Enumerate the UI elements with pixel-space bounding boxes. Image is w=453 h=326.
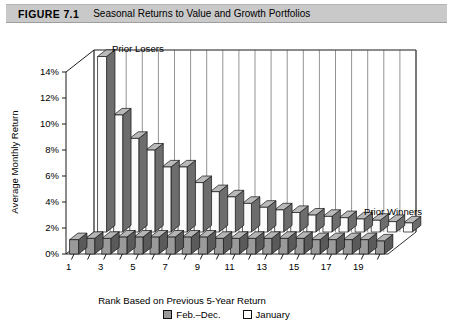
annotation-prior-losers: Prior Losers bbox=[112, 43, 164, 54]
x-tick bbox=[136, 254, 139, 260]
bar-feb-dec-10 bbox=[214, 232, 231, 254]
bar-feb-dec-9 bbox=[198, 231, 215, 255]
chart-legend: Feb.–Dec. January bbox=[0, 304, 453, 324]
bar-feb-dec-12 bbox=[247, 232, 264, 254]
x-tick bbox=[361, 254, 364, 260]
bar-side-face bbox=[123, 108, 131, 232]
bar-side-face bbox=[171, 160, 179, 232]
bar-side-face bbox=[107, 50, 115, 232]
y-tick-label: 2% bbox=[45, 222, 59, 233]
y-tick-label: 4% bbox=[45, 196, 59, 207]
bar-side-face bbox=[155, 144, 163, 233]
figure-header-band: FIGURE 7.1 Seasonal Returns to Value and… bbox=[6, 4, 447, 23]
bar-side-face bbox=[139, 132, 147, 232]
x-tick bbox=[313, 254, 316, 260]
bar-feb-dec-15 bbox=[295, 232, 312, 254]
x-tick bbox=[281, 254, 284, 260]
bar-january-9 bbox=[226, 190, 243, 232]
figure-title-label: Seasonal Returns to Value and Growth Por… bbox=[93, 8, 310, 19]
y-tick-label: 14% bbox=[40, 66, 60, 77]
annotation-prior-winners: Prior Winners bbox=[364, 206, 422, 217]
x-tick-label: 5 bbox=[130, 261, 135, 272]
figure-container: FIGURE 7.1 Seasonal Returns to Value and… bbox=[0, 0, 453, 326]
y-axis-title: Average Monthly Return bbox=[9, 110, 20, 213]
bar-january-10 bbox=[242, 197, 259, 232]
x-tick-label: 17 bbox=[321, 261, 332, 272]
bar-january-14 bbox=[307, 209, 324, 233]
bar-feb-dec-17 bbox=[327, 233, 344, 254]
bar-side-face bbox=[219, 185, 227, 232]
legend-label-january: January bbox=[256, 309, 290, 320]
bar-feb-dec-11 bbox=[231, 232, 248, 254]
bar-january-1 bbox=[98, 50, 115, 232]
x-tick-label: 11 bbox=[225, 261, 235, 272]
y-tick-label: 6% bbox=[45, 170, 59, 181]
y-axis-top-edge bbox=[66, 50, 94, 72]
figure-number-label: FIGURE 7.1 bbox=[18, 8, 79, 20]
bar-front-face bbox=[70, 240, 79, 254]
bar-january-2 bbox=[114, 108, 131, 232]
bar-feb-dec-5 bbox=[134, 231, 151, 255]
bar-feb-dec-18 bbox=[343, 233, 360, 254]
x-tick bbox=[329, 254, 332, 260]
bar-feb-dec-14 bbox=[279, 232, 296, 254]
legend-item-feb-dec: Feb.–Dec. bbox=[163, 309, 220, 320]
bar-front-face bbox=[98, 57, 107, 233]
x-tick bbox=[88, 254, 91, 260]
bar-side-face bbox=[187, 160, 195, 232]
bar-feb-dec-2 bbox=[86, 232, 103, 254]
y-tick-label: 0% bbox=[45, 248, 59, 259]
bar-feb-dec-6 bbox=[150, 231, 167, 255]
y-tick-label: 10% bbox=[40, 118, 60, 129]
bar-feb-dec-3 bbox=[102, 232, 119, 254]
legend-item-january: January bbox=[243, 309, 290, 320]
bar-feb-dec-7 bbox=[166, 231, 183, 255]
bar-january-8 bbox=[210, 185, 227, 232]
chart-plot-area: 0%2%4%6%8%10%12%14%135791113151719Prior … bbox=[0, 22, 453, 326]
bar-january-7 bbox=[194, 176, 211, 232]
x-tick bbox=[104, 254, 107, 260]
bar-january-12 bbox=[275, 203, 292, 232]
bar-january-5 bbox=[162, 160, 179, 232]
x-tick-label: 3 bbox=[98, 261, 103, 272]
bar-side-face bbox=[203, 176, 211, 232]
bar-feb-dec-1 bbox=[70, 233, 87, 254]
x-tick bbox=[377, 254, 380, 260]
bar-january-11 bbox=[259, 201, 276, 232]
bar-january-19 bbox=[387, 215, 404, 232]
bar-january-6 bbox=[178, 160, 195, 232]
bar-feb-dec-4 bbox=[118, 231, 135, 255]
x-tick-label: 1 bbox=[66, 261, 71, 272]
legend-swatch-feb-dec bbox=[163, 310, 172, 319]
y-tick-label: 12% bbox=[40, 92, 60, 103]
bar-feb-dec-19 bbox=[359, 233, 376, 254]
x-tick bbox=[249, 254, 252, 260]
x-tick bbox=[184, 254, 187, 260]
bar-feb-dec-8 bbox=[182, 231, 199, 255]
x-tick bbox=[345, 254, 348, 260]
bar-january-16 bbox=[339, 211, 356, 232]
x-tick bbox=[168, 254, 171, 260]
bar-january-15 bbox=[323, 210, 340, 232]
x-tick bbox=[232, 254, 235, 260]
bar-january-13 bbox=[291, 206, 308, 232]
bar-january-4 bbox=[146, 144, 163, 233]
y-tick-label: 8% bbox=[45, 144, 59, 155]
x-tick-label: 15 bbox=[289, 261, 300, 272]
x-tick bbox=[71, 254, 74, 260]
x-tick-label: 7 bbox=[163, 261, 168, 272]
x-tick bbox=[265, 254, 268, 260]
bar-chart-3d: 0%2%4%6%8%10%12%14%135791113151719Prior … bbox=[0, 22, 453, 326]
bar-side-face bbox=[235, 190, 243, 232]
x-tick bbox=[200, 254, 203, 260]
x-tick bbox=[120, 254, 123, 260]
x-tick bbox=[297, 254, 300, 260]
x-tick bbox=[152, 254, 155, 260]
bar-january-20 bbox=[403, 216, 420, 232]
x-tick-label: 13 bbox=[256, 261, 267, 272]
x-tick-label: 19 bbox=[353, 261, 364, 272]
legend-label-feb-dec: Feb.–Dec. bbox=[176, 309, 220, 320]
x-tick-label: 9 bbox=[195, 261, 200, 272]
legend-swatch-january bbox=[243, 310, 252, 319]
bar-feb-dec-13 bbox=[263, 232, 280, 254]
